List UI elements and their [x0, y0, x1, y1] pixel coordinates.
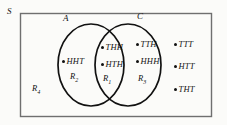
region-label-r3-subscript: 3: [143, 79, 146, 85]
outcome-label: HTT: [179, 61, 195, 71]
outcome-label: TTH: [141, 39, 157, 49]
outcome-dot-icon: [101, 46, 104, 49]
region-label-r1: R1: [103, 74, 111, 85]
outcome-point-ttt: TTT: [174, 40, 193, 49]
outcome-dot-icon: [174, 43, 177, 46]
region-label-r1-subscript: 1: [108, 79, 111, 85]
region-label-r4-subscript: 4: [37, 89, 40, 95]
region-label-r4: R4: [32, 84, 40, 95]
outcome-point-tht: THT: [174, 85, 195, 94]
venn-diagram-figure: S A C R1 R2 R3 R4 HHT THH HTH TTH HHH TT…: [0, 0, 227, 125]
outcome-point-hht: HHT: [62, 57, 84, 66]
outcome-label: HHT: [67, 56, 85, 66]
outcome-label: HHH: [141, 56, 160, 66]
outcome-dot-icon: [136, 60, 139, 63]
outcome-dot-icon: [101, 63, 104, 66]
outcome-point-tth: TTH: [136, 40, 157, 49]
outcome-point-thh: THH: [101, 43, 123, 52]
universe-label: S: [7, 7, 12, 16]
outcome-dot-icon: [136, 43, 139, 46]
outcome-point-hth: HTH: [101, 60, 123, 69]
outcome-label: THH: [106, 42, 124, 52]
region-label-r3: R3: [138, 74, 146, 85]
outcome-dot-icon: [174, 65, 177, 68]
region-label-r2: R2: [70, 72, 78, 83]
set-label-c: C: [137, 12, 143, 21]
outcome-label: TTT: [179, 39, 194, 49]
region-label-r2-subscript: 2: [75, 77, 78, 83]
outcome-point-hhh: HHH: [136, 57, 160, 66]
outcome-label: HTH: [106, 59, 124, 69]
outcome-dot-icon: [62, 60, 65, 63]
outcome-dot-icon: [174, 88, 177, 91]
outcome-point-htt: HTT: [174, 62, 195, 71]
outcome-label: THT: [179, 84, 195, 94]
set-label-a: A: [63, 14, 69, 23]
